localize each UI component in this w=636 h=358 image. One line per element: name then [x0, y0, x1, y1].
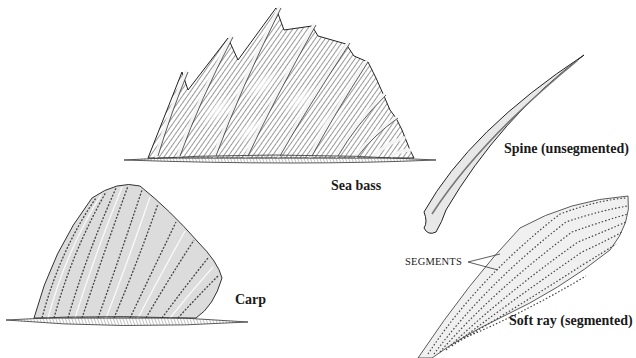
label-sea-bass: Sea bass: [331, 178, 381, 194]
label-carp: Carp: [235, 292, 266, 308]
soft-ray-drawing: [418, 196, 629, 358]
fin-illustration-canvas: [0, 0, 636, 358]
sea-bass-fin: [124, 8, 436, 163]
label-spine: Spine (unsegmented): [504, 141, 629, 157]
carp-fin: [6, 185, 248, 326]
label-soft-ray: Soft ray (segmented): [509, 313, 633, 329]
label-segments: SEGMENTS: [405, 256, 462, 267]
